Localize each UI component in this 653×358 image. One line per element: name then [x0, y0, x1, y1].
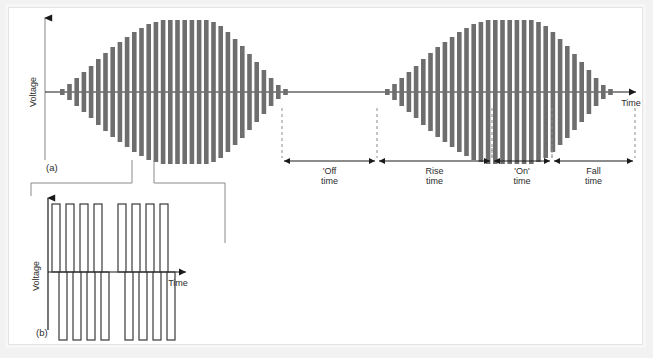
waveform-bar — [139, 28, 144, 156]
panel-a: Voltage Time (a) 'OfftimeRisetime'On'tim… — [28, 18, 641, 186]
waveform-bar — [146, 24, 151, 160]
pulse-negative — [139, 272, 147, 340]
waveform-bar — [103, 53, 108, 131]
waveform-bar — [579, 62, 584, 122]
pulse-negative — [101, 272, 109, 340]
waveform-bar — [572, 54, 577, 130]
waveform-bar — [457, 32, 462, 152]
panel-b: Voltage Time (b) — [31, 198, 188, 340]
figure-root: Voltage Time (a) 'OfftimeRisetime'On'tim… — [0, 0, 653, 358]
waveform-bar — [392, 84, 397, 100]
waveform-bar — [601, 85, 606, 99]
waveform-bar — [154, 22, 159, 162]
waveform-bar — [543, 26, 548, 158]
waveform-bar — [407, 72, 412, 112]
pulse-positive — [146, 204, 154, 272]
waveform-bar — [594, 78, 599, 106]
pulse-positive — [94, 204, 102, 272]
pulse-positive — [80, 204, 88, 272]
on-time-label: 'On' — [514, 166, 530, 176]
waveform-bar — [67, 84, 72, 100]
leader-right — [154, 160, 225, 243]
waveform-bar — [385, 89, 390, 95]
waveform-bar — [211, 22, 216, 162]
panel-b-label: (b) — [36, 327, 48, 338]
waveform-bar — [233, 39, 238, 145]
panel-a-label: (a) — [46, 162, 58, 173]
waveform-bar — [82, 72, 87, 112]
waveform-bar — [500, 20, 505, 164]
waveform-bar — [479, 22, 484, 162]
pulse-positive — [66, 204, 74, 272]
pulse-positive — [160, 204, 168, 272]
panel-b-y-axis-label: Voltage — [31, 261, 41, 291]
panel-a-y-axis-label: Voltage — [28, 77, 38, 107]
waveform-bar — [399, 78, 404, 106]
waveform-bar — [60, 89, 65, 95]
waveform-bar — [161, 20, 166, 164]
waveform-bar — [262, 70, 267, 114]
waveform-bar — [269, 78, 274, 106]
waveform-figure: Voltage Time (a) 'OfftimeRisetime'On'tim… — [0, 0, 653, 358]
waveform-bar — [175, 20, 180, 164]
waveform-bar — [89, 66, 94, 118]
pulse-positive — [52, 204, 60, 272]
panel-a-dimension-labels: 'OfftimeRisetime'On'timeFalltime — [321, 166, 602, 186]
waveform-bar — [190, 20, 195, 164]
waveform-bar — [421, 59, 426, 125]
waveform-bar — [428, 53, 433, 131]
waveform-bar — [110, 47, 115, 137]
rise-time-label: Rise — [425, 166, 443, 176]
waveform-bar — [218, 26, 223, 158]
waveform-bar — [486, 20, 491, 164]
off-time-label: time — [321, 176, 338, 186]
waveform-bar — [608, 89, 613, 95]
waveform-bar — [240, 46, 245, 138]
rise-time-label: time — [426, 176, 443, 186]
waveform-bar — [565, 46, 570, 138]
waveform-bar — [522, 20, 527, 164]
waveform-bar — [247, 54, 252, 130]
pulse-negative — [125, 272, 133, 340]
waveform-bar — [182, 20, 187, 164]
waveform-bar — [450, 37, 455, 147]
pulse-positive — [118, 204, 126, 272]
off-time-label: 'Off — [323, 166, 337, 176]
waveform-bar — [168, 20, 173, 164]
waveform-bar — [587, 70, 592, 114]
waveform-bar — [226, 32, 231, 152]
pulse-positive — [132, 204, 140, 272]
waveform-bar — [558, 39, 563, 145]
waveform-bar — [471, 24, 476, 160]
waveform-bar — [125, 37, 130, 147]
waveform-bar — [283, 89, 288, 95]
panel-b-x-axis-label: Time — [168, 278, 188, 288]
waveform-bar — [74, 78, 79, 106]
on-time-label: time — [513, 176, 530, 186]
waveform-bar — [96, 59, 101, 125]
pulse-negative — [59, 272, 67, 340]
pulse-negative — [73, 272, 81, 340]
waveform-bar — [197, 20, 202, 164]
pulse-negative — [153, 272, 161, 340]
waveform-bar — [551, 32, 556, 152]
waveform-bar — [464, 28, 469, 156]
fall-time-label: time — [585, 176, 602, 186]
waveform-bar — [414, 66, 419, 118]
panel-a-x-axis-label: Time — [621, 98, 641, 108]
waveform-bar — [435, 47, 440, 137]
waveform-bar — [254, 62, 259, 122]
waveform-bar — [132, 32, 137, 152]
fall-time-label: Fall — [586, 166, 601, 176]
waveform-bar — [507, 20, 512, 164]
waveform-bar — [493, 20, 498, 164]
waveform-bar — [204, 20, 209, 164]
waveform-bar — [276, 85, 281, 99]
pulse-negative — [87, 272, 95, 340]
waveform-bar — [118, 42, 123, 142]
waveform-bar — [515, 20, 520, 164]
waveform-bar — [529, 20, 534, 164]
waveform-bar — [443, 42, 448, 142]
waveform-bar — [536, 22, 541, 162]
